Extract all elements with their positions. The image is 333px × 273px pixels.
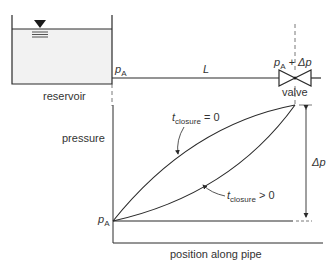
- pipe-length-label: L: [203, 63, 209, 75]
- water-hammer-diagram: reservoir pA L pA + Δp valve pressure po…: [0, 0, 333, 273]
- pressure-graph: pressure position along pipe pA Δp tclos…: [62, 105, 326, 260]
- reservoir-label: reservoir: [43, 90, 86, 102]
- pipe-entrance-pressure-label: pA: [114, 63, 127, 78]
- x-axis-label: position along pipe: [170, 248, 262, 260]
- instant-closure-label: tclosure = 0: [172, 111, 220, 126]
- origin-pressure-label: pA: [97, 213, 110, 228]
- instant-closure-pointer: [178, 127, 184, 154]
- y-axis-label: pressure: [62, 132, 105, 144]
- reservoir-water: [12, 29, 112, 84]
- gradual-closure-label: tclosure > 0: [227, 189, 275, 204]
- gradual-closure-pointer: [203, 185, 225, 196]
- reservoir: reservoir: [12, 15, 112, 102]
- valve: pA + Δp valve: [273, 56, 312, 98]
- delta-p-label: Δp: [311, 156, 326, 168]
- valve-pressure-label: pA + Δp: [273, 56, 312, 71]
